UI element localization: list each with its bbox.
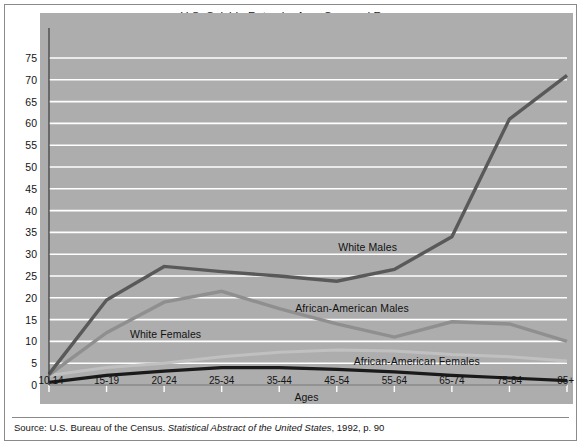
y-tick-label: 15 xyxy=(3,314,37,326)
y-tick-label: 55 xyxy=(3,139,37,151)
plot-panel: White MalesAfrican-American MalesWhite F… xyxy=(40,13,573,404)
series-label-african-american-males: African-American Males xyxy=(295,302,409,314)
y-tick-label: 50 xyxy=(3,161,37,173)
x-tick-label: 55-64 xyxy=(382,375,407,386)
y-tick-label: 75 xyxy=(3,52,37,64)
source-prefix: Source: U.S. Bureau of the Census. xyxy=(14,422,168,433)
chart-figure: U.S. Suicide Rates by Age, Sex, and Race… xyxy=(0,0,581,445)
y-tick-label: 45 xyxy=(3,183,37,195)
y-tick-label: 25 xyxy=(3,270,37,282)
series-label-white-females: White Females xyxy=(130,328,201,340)
x-tick-label: 75-84 xyxy=(497,375,522,386)
y-tick-label: 5 xyxy=(3,357,37,369)
y-tick-label: 40 xyxy=(3,205,37,217)
source-suffix: , 1992, p. 90 xyxy=(332,422,385,433)
x-tick-label: 10-14 xyxy=(38,375,63,386)
series-line-white-males xyxy=(49,75,567,374)
chart-canvas xyxy=(40,13,573,404)
x-tick-label: 35-44 xyxy=(267,375,292,386)
x-tick-label: 65-74 xyxy=(439,375,464,386)
series-label-white-males: White Males xyxy=(338,241,397,253)
y-tick-label: 30 xyxy=(3,248,37,260)
y-tick-label: 70 xyxy=(3,74,37,86)
source-divider xyxy=(12,417,569,418)
y-tick-label: 10 xyxy=(3,335,37,347)
x-axis-title: Ages xyxy=(40,391,573,403)
y-tick-label: 65 xyxy=(3,96,37,108)
y-tick-label: 35 xyxy=(3,226,37,238)
x-axis-ticks: 10-1415-1920-2425-3435-4445-5455-6465-74… xyxy=(40,375,573,391)
x-tick-label: 85+ xyxy=(557,375,574,386)
x-tick-label: 45-54 xyxy=(324,375,349,386)
y-axis-ticks: 051015202530354045505560657075 xyxy=(0,13,37,404)
axis-lines xyxy=(49,28,567,385)
y-tick-label: 60 xyxy=(3,117,37,129)
series-lines xyxy=(49,75,567,382)
y-tick-label: 0 xyxy=(3,379,37,391)
source-title-italic: Statistical Abstract of the United State… xyxy=(168,422,332,433)
x-tick-label: 15-19 xyxy=(94,375,119,386)
series-label-african-american-females: African-American Females xyxy=(354,355,480,367)
x-tick-label: 25-34 xyxy=(209,375,234,386)
x-tick-label: 20-24 xyxy=(152,375,177,386)
y-tick-label: 20 xyxy=(3,292,37,304)
gridlines xyxy=(49,58,567,385)
source-note: Source: U.S. Bureau of the Census. Stati… xyxy=(14,422,384,433)
